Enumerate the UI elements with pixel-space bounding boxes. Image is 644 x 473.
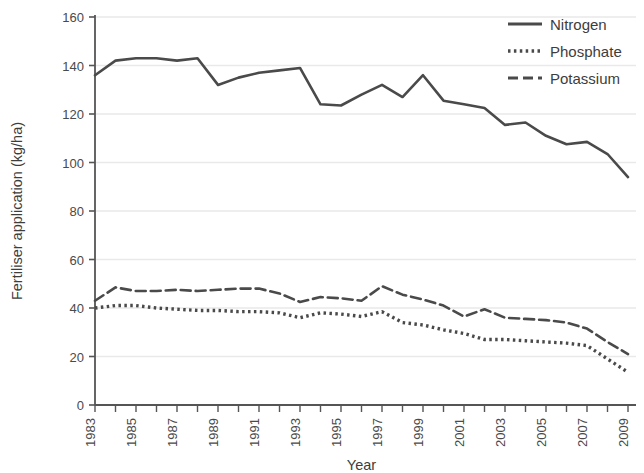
fertiliser-application-line-chart: 0204060801001201401601983198519871989199… [0,0,644,473]
x-tick-label: 2003 [493,418,508,447]
series-line-nitrogen [95,58,628,177]
y-tick-label: 100 [62,156,84,171]
y-tick-label: 120 [62,107,84,122]
x-tick-label: 1997 [370,418,385,447]
y-tick-label: 20 [70,350,84,365]
x-tick-label: 1991 [247,418,262,447]
y-tick-label: 60 [70,253,84,268]
series-line-potassium [95,286,628,354]
x-axis-title: Year [347,457,376,473]
x-tick-label: 1993 [288,418,303,447]
x-tick-label: 2005 [534,418,549,447]
x-tick-label: 2007 [575,418,590,447]
legend-label-potassium: Potassium [550,70,620,87]
x-tick-label: 1999 [411,418,426,447]
x-tick-label: 2001 [452,418,467,447]
y-tick-label: 40 [70,301,84,316]
x-tick-label: 1989 [206,418,221,447]
legend-label-phosphate: Phosphate [550,43,622,60]
chart-svg: 0204060801001201401601983198519871989199… [0,0,644,473]
x-tick-label: 1983 [83,418,98,447]
x-tick-label: 1995 [329,418,344,447]
y-tick-label: 80 [70,204,84,219]
legend-label-nitrogen: Nitrogen [550,16,607,33]
y-axis-title: Fertiliser application (kg/ha) [9,122,25,300]
x-tick-label: 1985 [124,418,139,447]
x-tick-label: 1987 [165,418,180,447]
x-tick-label: 2009 [616,418,631,447]
series-line-phosphate [95,306,628,373]
y-tick-label: 160 [62,10,84,25]
y-tick-label: 0 [77,398,84,413]
y-tick-label: 140 [62,59,84,74]
